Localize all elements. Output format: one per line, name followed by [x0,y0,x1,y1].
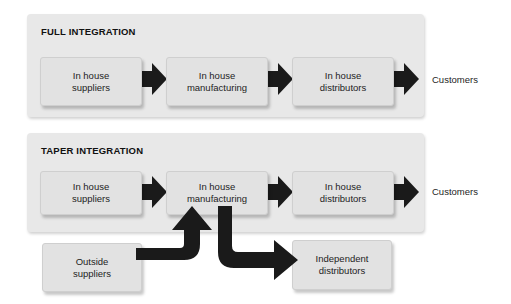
node-label-line2: suppliers [73,268,111,280]
end-label-customers-full: Customers [432,74,478,85]
node-outside-suppliers: Outside suppliers [42,243,142,292]
node-label-line2: distributors [320,82,366,94]
node-label-line1: Independent [316,253,369,265]
node-label-line1: In house [187,181,247,193]
node-taper-in-house-suppliers: In house suppliers [40,171,142,215]
node-independent-distributors: Independent distributors [292,240,392,290]
node-full-in-house-manufacturing: In house manufacturing [166,57,268,106]
node-label-line1: In house [72,70,110,82]
end-label-customers-taper: Customers [432,186,478,197]
node-label-line2: suppliers [72,82,110,94]
node-label-line2: suppliers [72,193,110,205]
node-full-in-house-suppliers: In house suppliers [40,57,142,106]
elbow-arrow-manufacturing-to-independent-distributors [218,206,302,282]
elbow-arrow-outside-suppliers-to-manufacturing [136,206,220,282]
node-label-line2: distributors [320,193,366,205]
node-label-line2: manufacturing [187,193,247,205]
panel-title-full-integration: FULL INTEGRATION [41,26,136,37]
node-label-line1: Outside [73,256,111,268]
node-label-line2: distributors [316,265,369,277]
node-label-line1: In house [320,70,366,82]
node-taper-in-house-distributors: In house distributors [292,171,394,215]
panel-title-taper-integration: TAPER INTEGRATION [41,145,143,156]
node-label-line1: In house [187,70,247,82]
node-label-line1: In house [72,181,110,193]
node-label-line1: In house [320,181,366,193]
node-label-line2: manufacturing [187,82,247,94]
node-full-in-house-distributors: In house distributors [292,57,394,106]
diagram-canvas: FULL INTEGRATION In house suppliers In h… [0,0,511,304]
